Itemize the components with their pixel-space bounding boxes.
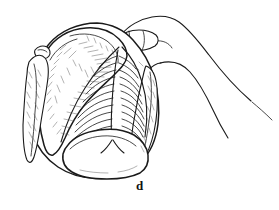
hand-crease-upper bbox=[252, 102, 272, 120]
trilobite-fossil-group bbox=[23, 23, 159, 179]
hand-wrist-contour bbox=[160, 62, 228, 138]
panel-label: d bbox=[0, 179, 279, 193]
figure-panel: d bbox=[0, 0, 279, 210]
